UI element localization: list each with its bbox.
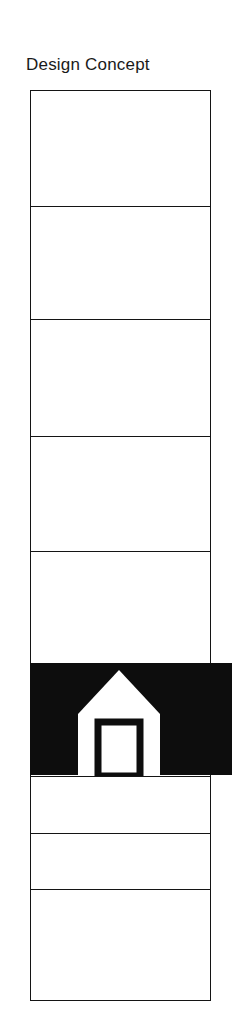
design-concept-page: Design Concept	[0, 0, 240, 1018]
panel-cell-5	[31, 551, 210, 664]
panel-cell-3	[31, 319, 210, 436]
panel-cell-8	[31, 833, 210, 889]
concept-panel-column	[30, 90, 211, 1001]
house-icon	[78, 670, 160, 776]
panel-cell-1	[31, 91, 210, 206]
panel-cell-4	[31, 436, 210, 551]
panel-cell-7	[31, 776, 210, 833]
page-title: Design Concept	[26, 54, 150, 76]
panel-cell-9	[31, 889, 210, 1002]
panel-cell-2	[31, 206, 210, 319]
